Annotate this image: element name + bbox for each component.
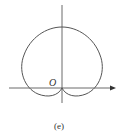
cardioid-diagram: O (e) <box>0 0 117 139</box>
figure-caption: (e) <box>54 121 64 131</box>
axis-arrowhead-icon <box>110 86 116 91</box>
origin-label: O <box>49 77 56 88</box>
